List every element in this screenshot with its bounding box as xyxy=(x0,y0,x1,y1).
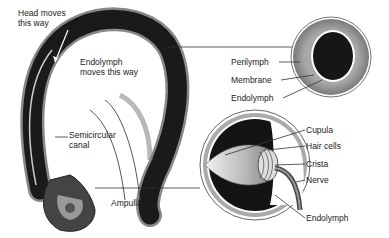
ampulla xyxy=(43,175,95,231)
label-semicircular-canal: Semicircular canal xyxy=(69,130,116,150)
label-endolymph-top: Endolymph xyxy=(231,93,274,103)
label-crista: Crista xyxy=(306,159,328,169)
label-endolymph-bottom: Endolymph xyxy=(306,213,349,223)
semicircular-canal-diagram xyxy=(0,0,389,238)
label-endolymph-moves: Endolymph moves this way xyxy=(80,57,138,77)
label-ampulla: Ampulla xyxy=(111,198,142,208)
ampulla-cross-section xyxy=(200,110,310,220)
label-membrane: Membrane xyxy=(231,75,272,85)
label-cupula: Cupula xyxy=(306,125,333,135)
label-perilymph: Perilymph xyxy=(231,57,269,67)
label-hair-cells: Hair cells xyxy=(306,141,341,151)
label-nerve: Nerve xyxy=(306,175,329,185)
label-head-moves: Head moves this way xyxy=(18,8,66,28)
canal-cross-section xyxy=(291,17,371,97)
